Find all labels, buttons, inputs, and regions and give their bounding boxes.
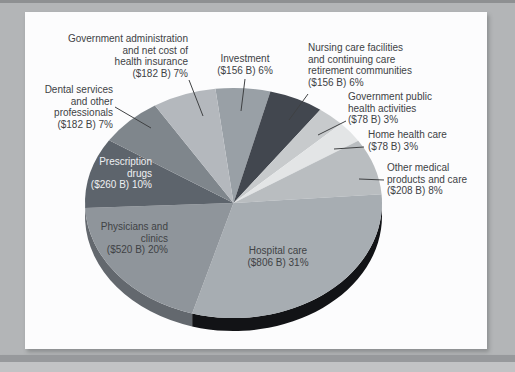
- pie-label-investment: Investment ($156 B) 6%: [198, 53, 292, 76]
- pie-label-government-administration: Government administration and net cost o…: [57, 33, 188, 79]
- page-top-edge: [0, 0, 515, 3]
- page-bottom-edge: [0, 362, 515, 372]
- label-line: Hospital care: [227, 245, 329, 257]
- label-line: ($156 B) 6%: [198, 65, 292, 77]
- label-line: Other medical: [387, 162, 477, 174]
- label-line: Government public: [348, 91, 448, 103]
- pie-label-prescription-drugs: Prescription drugs ($260 B) 10%: [70, 156, 152, 191]
- pie-label-physicians-and-clinics: Physicians and clinics ($520 B) 20%: [76, 221, 168, 256]
- pie-label-other-medical-products: Other medical products and care ($208 B)…: [387, 162, 477, 197]
- label-line: ($806 B) 31%: [227, 257, 329, 269]
- label-line: and net cost of: [57, 45, 188, 57]
- page-bottom-shadow: [0, 355, 515, 362]
- label-line: ($182 B) 7%: [31, 119, 113, 131]
- label-line: ($78 B) 3%: [368, 141, 460, 153]
- label-line: Home health care: [368, 129, 460, 141]
- label-line: Nursing care facilities: [308, 42, 420, 54]
- label-line: ($520 B) 20%: [76, 244, 168, 256]
- label-line: ($78 B) 3%: [348, 114, 448, 126]
- label-line: ($260 B) 10%: [70, 179, 152, 191]
- scanned-figure-page: Government administration and net cost o…: [0, 0, 515, 372]
- label-line: Government administration: [57, 33, 188, 45]
- pie-label-home-health-care: Home health care ($78 B) 3%: [368, 129, 460, 152]
- label-line: drugs: [70, 168, 152, 180]
- label-line: ($156 B) 6%: [308, 77, 420, 89]
- label-line: Prescription: [70, 156, 152, 168]
- pie-label-hospital-care: Hospital care ($806 B) 31%: [227, 245, 329, 268]
- label-line: retirement communities: [308, 65, 420, 77]
- label-line: Dental services: [31, 84, 113, 96]
- label-line: and continuing care: [308, 54, 420, 66]
- label-line: products and care: [387, 174, 477, 186]
- label-line: health insurance: [57, 56, 188, 68]
- label-line: ($182 B) 7%: [57, 68, 188, 80]
- label-line: clinics: [76, 233, 168, 245]
- pie-label-dental-services: Dental services and other professionals …: [31, 84, 113, 130]
- pie-label-government-public-health: Government public health activities ($78…: [348, 91, 448, 126]
- label-line: Physicians and: [76, 221, 168, 233]
- label-line: ($208 B) 8%: [387, 185, 477, 197]
- pie-label-nursing-care-facilities: Nursing care facilities and continuing c…: [308, 42, 420, 88]
- label-line: Investment: [198, 53, 292, 65]
- label-line: health activities: [348, 103, 448, 115]
- label-line: and other: [31, 96, 113, 108]
- label-line: professionals: [31, 107, 113, 119]
